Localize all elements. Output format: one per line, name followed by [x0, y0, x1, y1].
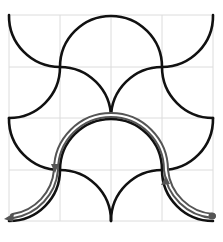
arc-tiling-diagram — [0, 0, 223, 242]
path-start-dot — [209, 213, 216, 220]
